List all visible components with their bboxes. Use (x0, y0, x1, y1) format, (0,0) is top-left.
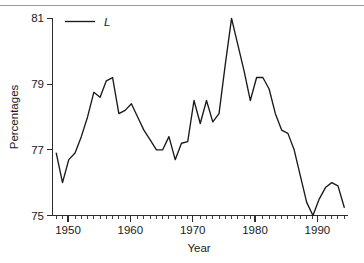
chart-figure: 75 77 79 81 1950 1960 1970 1980 1990 Yea… (0, 0, 364, 263)
x-tick-label-1960: 1960 (118, 224, 144, 236)
line-chart-plot: 75 77 79 81 1950 1960 1970 1980 1990 Yea… (0, 0, 364, 263)
x-tick-label-1970: 1970 (180, 224, 206, 236)
y-tick-label-75: 75 (31, 210, 44, 222)
y-tick-labels: 75 77 79 81 (31, 12, 44, 221)
y-tick-label-81: 81 (31, 12, 44, 24)
x-tick-label-1980: 1980 (242, 224, 268, 236)
x-axis-major-ticks (68, 216, 317, 222)
y-axis-title: Percentages (8, 84, 20, 149)
y-tick-label-77: 77 (31, 144, 44, 156)
x-axis-title: Year (187, 242, 210, 254)
chart-legend: L (65, 16, 110, 28)
y-axis-ticks (47, 18, 53, 215)
y-tick-label-79: 79 (31, 78, 44, 90)
x-tick-label-1950: 1950 (55, 224, 81, 236)
legend-label-L: L (104, 16, 110, 28)
x-tick-label-1990: 1990 (305, 224, 331, 236)
data-series-L (56, 18, 344, 215)
x-tick-labels: 1950 1960 1970 1980 1990 (55, 224, 330, 236)
